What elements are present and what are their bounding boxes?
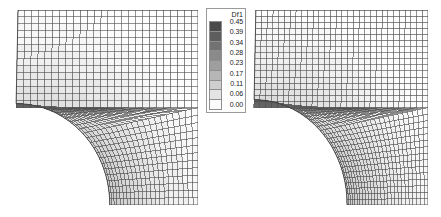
- colorbar-swatch: [210, 42, 221, 52]
- colorbar-legend: Df1 0.450.390.340.280.230.170.110.060.00: [206, 8, 246, 113]
- colorbar-tick-label: 0.11: [224, 79, 243, 89]
- colorbar-swatch: [210, 51, 221, 61]
- colorbar-tick-label: 0.39: [224, 27, 243, 37]
- colorbar-label-column: 0.450.390.340.280.230.170.110.060.00: [224, 17, 243, 110]
- colorbar-swatch: [210, 32, 221, 42]
- mesh-block-annular: [16, 104, 198, 205]
- mesh-block-annular: [254, 100, 428, 205]
- mesh-block-upper: [16, 10, 198, 108]
- mesh-plot-left: [14, 10, 198, 205]
- colorbar-swatch: [210, 90, 221, 100]
- mesh-plot-left-svg: [14, 10, 198, 205]
- colorbar-tick-label: 0.28: [224, 48, 243, 58]
- colorbar-tick-label: 0.17: [224, 69, 243, 79]
- colorbar-body: 0.450.390.340.280.230.170.110.060.00: [209, 21, 243, 110]
- colorbar-tick-label: 0.06: [224, 89, 243, 99]
- colorbar-swatch: [210, 61, 221, 71]
- colorbar-tick-label: 0.45: [224, 17, 243, 27]
- colorbar-swatch: [210, 71, 221, 81]
- figure-canvas: Df1 0.450.390.340.280.230.170.110.060.00: [0, 0, 441, 217]
- mesh-block-upper: [254, 10, 428, 108]
- colorbar-tick-label: 0.34: [224, 38, 243, 48]
- colorbar-swatch: [210, 22, 221, 32]
- mesh-plot-right-svg: [252, 10, 428, 205]
- colorbar-swatch-column: [209, 21, 222, 110]
- colorbar-tick-label: 0.23: [224, 58, 243, 68]
- mesh-plot-right: [252, 10, 428, 205]
- colorbar-swatch: [210, 81, 221, 91]
- colorbar-swatch: [210, 100, 221, 109]
- colorbar-tick-label: 0.00: [224, 100, 243, 110]
